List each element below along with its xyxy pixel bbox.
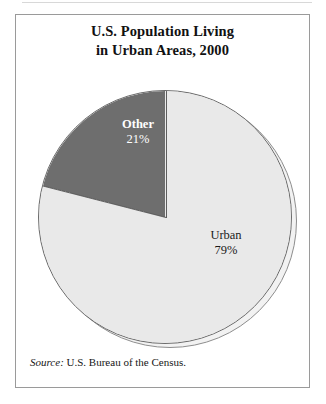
slice-label-other-name: Other xyxy=(103,117,173,132)
pie-chart-graphic: Other 21% Urban 79% xyxy=(19,74,301,344)
slice-label-urban: Urban 79% xyxy=(191,228,261,258)
figure-frame: U.S. Population Living in Urban Areas, 2… xyxy=(15,14,310,388)
figure-title: U.S. Population Living in Urban Areas, 2… xyxy=(16,22,309,60)
source-note: Source: U.S. Bureau of the Census. xyxy=(30,356,186,368)
source-label: Source: xyxy=(30,356,64,368)
figure-title-line-2: in Urban Areas, 2000 xyxy=(16,41,309,60)
page-top-rule xyxy=(22,2,312,3)
source-text: U.S. Bureau of the Census. xyxy=(64,356,186,368)
slice-divider-vertical xyxy=(166,91,167,218)
pie-chart: Other 21% Urban 79% xyxy=(16,65,311,345)
slice-label-other: Other 21% xyxy=(103,117,173,147)
slice-label-urban-name: Urban xyxy=(191,228,261,243)
figure-title-line-1: U.S. Population Living xyxy=(16,22,309,41)
slice-label-urban-value: 79% xyxy=(191,243,261,258)
slice-label-other-value: 21% xyxy=(103,132,173,147)
